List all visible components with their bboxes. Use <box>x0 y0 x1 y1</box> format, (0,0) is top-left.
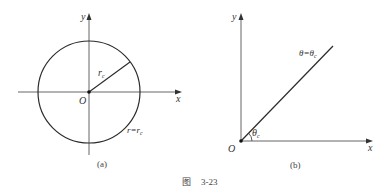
radius-label-sub: c <box>102 73 105 79</box>
panel-b-caption: (b) <box>290 161 301 170</box>
figure-caption-prefix: 图 <box>182 177 191 187</box>
curve-label-main: r=r <box>127 125 140 135</box>
line-label-main: θ=θ <box>299 48 314 58</box>
panel-a-radius-label: rc <box>98 68 105 79</box>
panel-b-origin-dot <box>239 139 243 143</box>
panel-a-x-axis-label: x <box>176 94 180 104</box>
panel-a-origin-dot <box>87 90 91 94</box>
figure-caption: 图3-23 <box>182 178 218 187</box>
figure-canvas <box>0 0 385 190</box>
panel-b-x-axis-label: x <box>368 143 372 153</box>
line-label-sub: c <box>314 53 317 59</box>
panel-b-line-label: θ=θc <box>299 49 317 59</box>
panel-a-origin-label: O <box>79 96 86 106</box>
panel-a-radius-line <box>89 62 130 92</box>
angle-label-sub: c <box>257 133 260 139</box>
panel-b-angle-label: θc <box>252 128 260 139</box>
panel-a-y-arrow-icon <box>87 13 92 20</box>
panel-a-y-axis-label: y <box>81 12 85 22</box>
panel-a-diagram <box>18 13 182 155</box>
curve-label-sub: c <box>140 130 143 136</box>
panel-a-caption: (a) <box>97 160 107 169</box>
panel-b-origin-label: O <box>228 144 235 154</box>
panel-b-y-axis-label: y <box>232 12 236 22</box>
panel-a-curve-label: r=rc <box>127 126 143 136</box>
panel-b-diagram <box>239 13 374 144</box>
panel-b-y-arrow-icon <box>239 13 244 20</box>
figure-caption-number: 3-23 <box>201 177 218 187</box>
